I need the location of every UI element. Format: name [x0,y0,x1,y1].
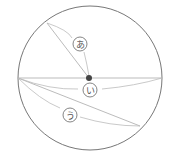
svg-text:う: う [66,111,75,121]
center-dot [86,75,92,81]
arc-u-right [80,117,140,126]
label-u: う [63,108,77,122]
arc-a [47,23,72,38]
svg-text:い: い [86,86,95,96]
arc-u-left [18,78,60,108]
circle-diagram: あ い う [0,0,174,157]
arc-i-left [18,78,78,89]
label-i: い [83,83,97,97]
chord-line [18,78,140,126]
arc-i-right [102,78,162,89]
label-a: あ [73,37,87,51]
svg-text:あ: あ [76,40,85,50]
